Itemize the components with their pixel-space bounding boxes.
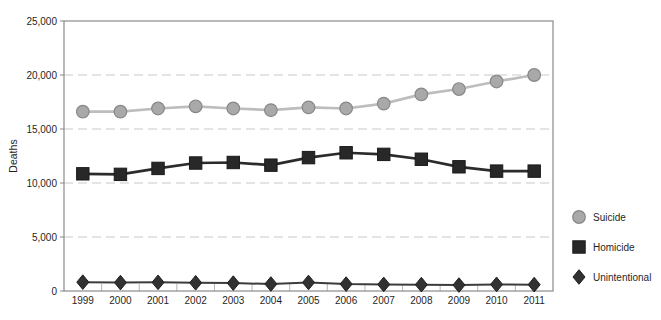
marker-suicide-2003 xyxy=(227,102,240,115)
marker-unintentional-2011 xyxy=(528,277,540,292)
marker-suicide-2006 xyxy=(340,102,353,115)
marker-suicide-2002 xyxy=(189,100,202,113)
marker-unintentional-2004 xyxy=(265,277,277,292)
y-axis-tick-label: 15,000 xyxy=(26,124,57,135)
marker-suicide-2011 xyxy=(528,69,541,82)
y-axis-tick-label: 5,000 xyxy=(32,232,57,243)
series-unintentional xyxy=(77,275,540,293)
marker-suicide-1999 xyxy=(77,105,90,118)
y-axis-tick-label: 10,000 xyxy=(26,178,57,189)
marker-unintentional-2002 xyxy=(190,275,202,290)
marker-homicide-2010 xyxy=(490,165,502,177)
marker-homicide-2011 xyxy=(528,165,540,177)
chart-canvas: 05,00010,00015,00020,00025,0001999200020… xyxy=(0,0,661,320)
x-axis-tick-label: 2005 xyxy=(297,295,320,306)
legend-marker-unintentional xyxy=(573,270,585,285)
marker-unintentional-2010 xyxy=(491,277,503,292)
series-suicide xyxy=(77,69,541,118)
x-axis-tick-label: 2006 xyxy=(335,295,358,306)
x-axis-tick-label: 2003 xyxy=(222,295,245,306)
marker-unintentional-2005 xyxy=(303,275,315,290)
marker-unintentional-2000 xyxy=(114,275,126,290)
marker-suicide-2000 xyxy=(114,105,127,118)
legend-item-homicide: Homicide xyxy=(573,241,635,253)
marker-homicide-2007 xyxy=(378,148,390,160)
marker-homicide-2002 xyxy=(189,157,201,169)
x-axis-tick-label: 2001 xyxy=(147,295,170,306)
marker-suicide-2009 xyxy=(453,83,466,96)
marker-suicide-2005 xyxy=(302,101,315,114)
legend-marker-suicide xyxy=(573,211,586,224)
marker-unintentional-2007 xyxy=(378,277,390,292)
marker-suicide-2010 xyxy=(490,75,503,88)
legend-label-suicide: Suicide xyxy=(593,212,626,223)
legend-item-suicide: Suicide xyxy=(573,211,627,224)
marker-unintentional-1999 xyxy=(77,275,89,290)
marker-unintentional-2008 xyxy=(415,277,427,292)
legend-item-unintentional: Unintentional xyxy=(573,270,651,285)
marker-homicide-2004 xyxy=(265,159,277,171)
x-axis-tick-label: 2009 xyxy=(448,295,471,306)
marker-homicide-2008 xyxy=(415,153,427,165)
marker-unintentional-2001 xyxy=(152,275,164,290)
legend-marker-homicide xyxy=(573,241,585,253)
marker-suicide-2008 xyxy=(415,88,428,101)
x-axis-tick-label: 1999 xyxy=(72,295,95,306)
marker-homicide-2005 xyxy=(302,151,314,163)
marker-unintentional-2006 xyxy=(340,277,352,292)
marker-homicide-2000 xyxy=(114,168,126,180)
marker-suicide-2001 xyxy=(152,102,165,115)
firearm-deaths-line-chart: 05,00010,00015,00020,00025,0001999200020… xyxy=(0,0,661,320)
marker-unintentional-2003 xyxy=(227,276,239,291)
legend-label-homicide: Homicide xyxy=(593,242,635,253)
series-homicide xyxy=(77,147,541,181)
y-axis-tick-label: 0 xyxy=(51,286,57,297)
y-axis-tick-label: 25,000 xyxy=(26,16,57,27)
x-axis-tick-label: 2011 xyxy=(523,295,545,306)
marker-suicide-2004 xyxy=(265,104,278,117)
legend-label-unintentional: Unintentional xyxy=(593,272,651,283)
marker-homicide-2006 xyxy=(340,147,352,159)
x-axis-tick-label: 2002 xyxy=(185,295,208,306)
marker-homicide-1999 xyxy=(77,168,89,180)
y-axis-tick-label: 20,000 xyxy=(26,70,57,81)
marker-homicide-2009 xyxy=(453,161,465,173)
x-axis-tick-label: 2000 xyxy=(109,295,132,306)
marker-homicide-2001 xyxy=(152,162,164,174)
x-axis-tick-label: 2004 xyxy=(260,295,283,306)
marker-homicide-2003 xyxy=(227,156,239,168)
marker-suicide-2007 xyxy=(377,97,390,110)
x-axis-tick-label: 2007 xyxy=(373,295,396,306)
x-axis-tick-label: 2008 xyxy=(410,295,433,306)
y-axis-title: Deaths xyxy=(7,139,19,172)
marker-unintentional-2009 xyxy=(453,278,465,293)
x-axis-tick-label: 2010 xyxy=(485,295,508,306)
